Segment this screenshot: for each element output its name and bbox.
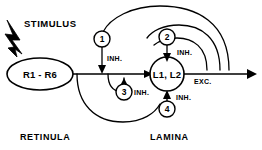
node-l1l2-label: L1, L2 (153, 69, 182, 80)
edge-label-inh-1: INH. (107, 55, 122, 62)
arrowhead-output (247, 69, 257, 79)
arrowhead-neuron1-inhibition (98, 65, 106, 74)
interneuron-2-label: 2 (165, 32, 170, 42)
node-r1r6-label: R1 - R6 (23, 69, 57, 80)
diagram-canvas: STIMULUS R1 - R6 L1, L2 1 2 3 4 INH. INH… (0, 0, 262, 150)
stimulus-label: STIMULUS (24, 18, 77, 29)
neural-circuit-diagram: STIMULUS R1 - R6 L1, L2 1 2 3 4 INH. INH… (0, 0, 262, 150)
region-label-retinula: RETINULA (20, 132, 70, 142)
interneuron-3-label: 3 (122, 87, 127, 97)
edge-label-inh-2: INH. (177, 49, 192, 56)
interneuron-1-label: 1 (100, 34, 105, 44)
interneuron-4-label: 4 (165, 104, 170, 114)
edge-label-inh-4: INH. (176, 94, 191, 101)
lightning-bolt-icon (5, 20, 22, 57)
region-label-lamina: LAMINA (150, 132, 189, 142)
edge-label-exc-output: EXC. (194, 78, 212, 85)
edge-label-inh-3: INH. (134, 89, 149, 96)
